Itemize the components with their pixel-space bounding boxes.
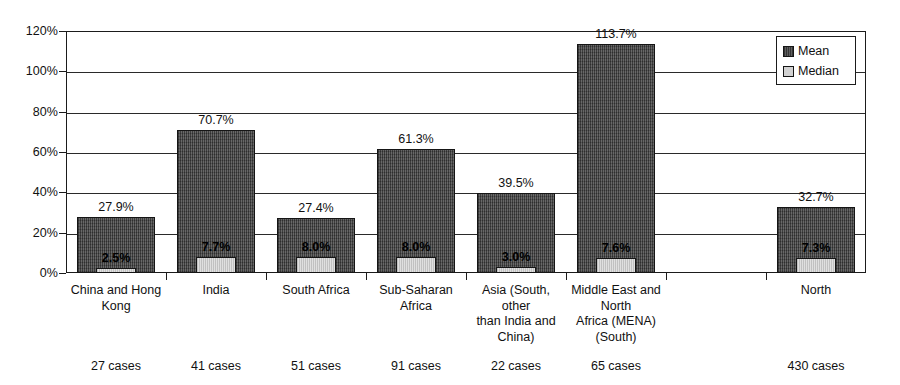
bar-mean xyxy=(577,44,655,273)
legend-swatch-median-icon xyxy=(783,66,794,77)
y-axis-tick-label: 20% xyxy=(6,227,58,239)
bar-value-label-median: 8.0% xyxy=(302,241,331,254)
y-axis-tick-label: 80% xyxy=(6,106,58,118)
bar-value-label-mean: 32.7% xyxy=(798,191,833,204)
x-axis-tick-mark xyxy=(466,273,467,280)
y-axis-tick-mark xyxy=(59,112,66,113)
legend-item[interactable]: Mean xyxy=(783,41,855,61)
bar-median xyxy=(596,258,636,273)
y-axis-tick-mark xyxy=(59,273,66,274)
category-label-line: Africa (MENA) xyxy=(566,314,666,330)
y-axis-tick-mark xyxy=(59,71,66,72)
bar-group: 39.5%3.0% xyxy=(477,31,555,273)
y-axis-tick-mark xyxy=(59,152,66,153)
x-axis-tick-mark xyxy=(766,273,767,280)
bar-value-label-mean: 27.9% xyxy=(98,201,133,214)
bar-value-label-median: 2.5% xyxy=(102,252,131,265)
legend: MeanMedian xyxy=(776,36,856,85)
x-axis-tick-mark xyxy=(566,273,567,280)
bar-group: 27.9%2.5% xyxy=(77,31,155,273)
bar-group: 70.7%7.7% xyxy=(177,31,255,273)
bar-value-label-median: 7.3% xyxy=(802,242,831,255)
y-axis-tick-mark xyxy=(59,192,66,193)
category-label-line: Africa xyxy=(366,299,466,315)
case-count-label: 27 cases xyxy=(66,359,166,373)
case-count-label: 430 cases xyxy=(766,359,866,373)
x-axis-category-label: North xyxy=(766,283,866,299)
y-axis-tick-label: 100% xyxy=(6,65,58,77)
bar-median xyxy=(96,268,136,273)
category-label-line: (South) xyxy=(566,330,666,346)
bars-layer: 27.9%2.5%70.7%7.7%27.4%8.0%61.3%8.0%39.5… xyxy=(66,31,866,273)
x-axis-category-label: India xyxy=(166,283,266,299)
y-axis-tick-label: 40% xyxy=(6,186,58,198)
y-axis-tick-label: 120% xyxy=(6,25,58,37)
bar-value-label-median: 7.7% xyxy=(202,241,231,254)
bar-value-label-median: 7.6% xyxy=(602,242,631,255)
legend-swatch-mean-icon xyxy=(783,46,794,57)
case-count-label: 91 cases xyxy=(366,359,466,373)
case-count-label: 51 cases xyxy=(266,359,366,373)
y-axis: 0%20%40%60%80%100%120% xyxy=(0,0,58,385)
category-label-line: Middle East and xyxy=(566,283,666,299)
x-axis-tick-mark xyxy=(366,273,367,280)
category-label-line: India xyxy=(166,283,266,299)
case-count-label: 65 cases xyxy=(566,359,666,373)
y-axis-tick-mark xyxy=(59,233,66,234)
bar-group: 27.4%8.0% xyxy=(277,31,355,273)
bar-group: 61.3%8.0% xyxy=(377,31,455,273)
bar-mean xyxy=(377,149,455,273)
category-label-line: Kong xyxy=(66,299,166,315)
x-axis-tick-mark xyxy=(666,273,667,280)
x-axis-category-label: South Africa xyxy=(266,283,366,299)
bar-chart: 0%20%40%60%80%100%120% 27.9%2.5%70.7%7.7… xyxy=(0,0,900,385)
bar-group: 113.7%7.6% xyxy=(577,31,655,273)
x-axis-category-label: China and HongKong xyxy=(66,283,166,314)
bar-value-label-mean: 39.5% xyxy=(498,177,533,190)
category-label-line: than India and xyxy=(466,314,566,330)
bar-value-label-mean: 61.3% xyxy=(398,133,433,146)
y-axis-tick-label: 0% xyxy=(6,267,58,279)
bar-value-label-median: 3.0% xyxy=(502,251,531,264)
bar-value-label-mean: 113.7% xyxy=(595,28,636,41)
bar-value-label-mean: 70.7% xyxy=(198,114,233,127)
bar-median xyxy=(296,257,336,273)
bar-median xyxy=(496,267,536,273)
category-label-line: North xyxy=(566,299,666,315)
case-count-label: 41 cases xyxy=(166,359,266,373)
y-axis-tick-label: 60% xyxy=(6,146,58,158)
category-label-line: Asia (South, other xyxy=(466,283,566,314)
x-axis-tick-mark xyxy=(166,273,167,280)
x-axis-category-label: Middle East andNorthAfrica (MENA)(South) xyxy=(566,283,666,345)
category-label-line: China and Hong xyxy=(66,283,166,299)
category-label-line: Sub-Saharan xyxy=(366,283,466,299)
category-label-line: China) xyxy=(466,330,566,346)
bar-median xyxy=(396,257,436,273)
bar-value-label-mean: 27.4% xyxy=(298,202,333,215)
legend-item[interactable]: Median xyxy=(783,61,855,81)
case-count-label: 22 cases xyxy=(466,359,566,373)
x-axis-category-label: Asia (South, otherthan India andChina) xyxy=(466,283,566,345)
legend-item-label: Mean xyxy=(798,45,829,58)
x-axis-category-label: Sub-SaharanAfrica xyxy=(366,283,466,314)
bar-value-label-median: 8.0% xyxy=(402,241,431,254)
category-label-line: North xyxy=(766,283,866,299)
x-axis-tick-mark xyxy=(266,273,267,280)
legend-item-label: Median xyxy=(798,65,839,78)
bar-median xyxy=(196,257,236,273)
bar-group xyxy=(677,31,755,273)
y-axis-tick-mark xyxy=(59,31,66,32)
bar-median xyxy=(796,258,836,273)
category-label-line: South Africa xyxy=(266,283,366,299)
